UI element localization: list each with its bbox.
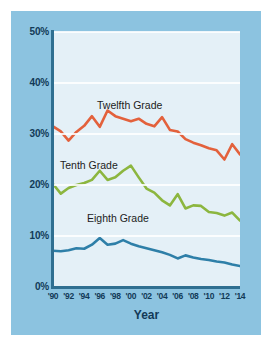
x-tick-label: '90 bbox=[48, 291, 59, 301]
x-tick-label: '14 bbox=[235, 291, 246, 301]
y-tick-label: 40% bbox=[9, 77, 49, 88]
x-tick-label: '08 bbox=[188, 291, 199, 301]
x-tick-label: '04 bbox=[157, 291, 168, 301]
x-tick-label: '12 bbox=[219, 291, 230, 301]
x-tick-label: '02 bbox=[141, 291, 152, 301]
gridline bbox=[53, 133, 240, 135]
y-tick-label: 20% bbox=[9, 179, 49, 190]
series-line-eighth-grade bbox=[53, 238, 240, 266]
series-label-twelfth-grade: Twelfth Grade bbox=[97, 99, 162, 111]
x-tick-label: '94 bbox=[79, 291, 90, 301]
x-tick-label: '06 bbox=[172, 291, 183, 301]
x-tick-label: '92 bbox=[63, 291, 74, 301]
x-tick-label: '10 bbox=[204, 291, 215, 301]
gridline bbox=[53, 235, 240, 237]
x-axis-tick-labels: '90'92'94'96'98'00'02'04'06'08'10'12'14 bbox=[53, 291, 240, 307]
x-tick-label: '96 bbox=[94, 291, 105, 301]
y-tick-label: 50% bbox=[9, 26, 49, 37]
x-tick-label: '00 bbox=[126, 291, 137, 301]
series-label-eighth-grade: Eighth Grade bbox=[87, 212, 149, 224]
gridline bbox=[53, 31, 240, 33]
series-label-tenth-grade: Tenth Grade bbox=[60, 159, 118, 171]
gridline bbox=[53, 82, 240, 84]
x-tick-label: '98 bbox=[110, 291, 121, 301]
x-axis-title: Year bbox=[53, 308, 240, 322]
y-tick-label: 0% bbox=[9, 281, 49, 292]
y-tick-label: 30% bbox=[9, 128, 49, 139]
y-axis-spine bbox=[51, 30, 54, 289]
y-tick-label: 10% bbox=[9, 230, 49, 241]
y-axis-tick-labels: 0%10%20%30%40%50% bbox=[5, 0, 49, 346]
series-line-twelfth-grade bbox=[53, 111, 240, 160]
gridline bbox=[53, 184, 240, 186]
x-axis-spine bbox=[51, 286, 240, 289]
chart-figure: 0%10%20%30%40%50% '90'92'94'96'98'00'02'… bbox=[0, 0, 272, 346]
